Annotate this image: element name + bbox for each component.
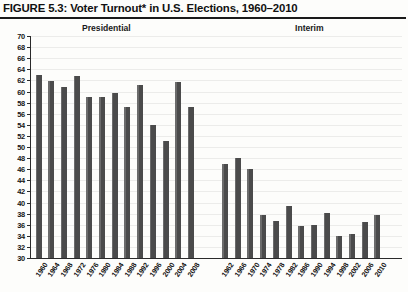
y-axis-label: 54 xyxy=(17,120,25,129)
y-axis-label: 48 xyxy=(17,154,25,163)
y-axis-label: 70 xyxy=(17,32,25,41)
bar-presidential-1976 xyxy=(86,97,92,258)
y-axis-tick xyxy=(27,258,30,259)
bar-highlight xyxy=(336,236,338,258)
bar-presidential-2000 xyxy=(163,141,169,258)
bar-highlight xyxy=(286,206,288,258)
y-axis-label: 44 xyxy=(17,176,25,185)
bar-highlight xyxy=(86,97,88,258)
x-axis-label-1996: 1996 xyxy=(147,261,163,279)
x-axis-label-1972: 1972 xyxy=(71,261,87,279)
bar-presidential-2008 xyxy=(188,107,194,258)
bar-highlight xyxy=(188,107,190,258)
bar-interim-1994 xyxy=(324,213,330,258)
bar-highlight xyxy=(74,76,76,258)
y-axis-label: 52 xyxy=(17,131,25,140)
section-header-presidential: Presidential xyxy=(82,23,131,33)
y-axis-label: 34 xyxy=(17,231,25,240)
title-bar: FIGURE 5.3: Voter Turnout* in U.S. Elect… xyxy=(0,0,408,19)
bar-highlight xyxy=(48,81,50,258)
bar-interim-1990 xyxy=(311,225,317,258)
x-axis-label-1992: 1992 xyxy=(135,261,151,279)
y-axis-label: 60 xyxy=(17,87,25,96)
bar-highlight xyxy=(311,225,313,258)
bar-presidential-1960 xyxy=(36,75,42,258)
y-axis-tick xyxy=(27,191,30,192)
y-axis-label: 36 xyxy=(17,220,25,229)
bar-highlight xyxy=(247,169,249,258)
x-axis-label-2010: 2010 xyxy=(372,261,388,279)
bar-presidential-1972 xyxy=(74,76,80,258)
y-axis-tick xyxy=(27,147,30,148)
y-axis-tick xyxy=(27,80,30,81)
gridline xyxy=(31,36,402,37)
section-header-interim: Interim xyxy=(295,23,324,33)
x-axis-label-1978: 1978 xyxy=(270,261,286,279)
y-axis-label: 40 xyxy=(17,198,25,207)
bar-interim-1974 xyxy=(260,215,266,258)
y-axis-tick xyxy=(27,214,30,215)
y-axis-tick xyxy=(27,125,30,126)
bar-highlight xyxy=(150,125,152,258)
bar-interim-2002 xyxy=(349,234,355,258)
y-axis-tick xyxy=(27,158,30,159)
x-axis-label-1966: 1966 xyxy=(232,261,248,279)
y-axis-tick xyxy=(27,169,30,170)
y-axis-tick xyxy=(27,69,30,70)
gridline xyxy=(31,47,402,48)
y-axis-label: 58 xyxy=(17,98,25,107)
bar-interim-1998 xyxy=(336,236,342,258)
y-axis-label: 64 xyxy=(17,65,25,74)
gridline xyxy=(31,69,402,70)
bar-interim-1978 xyxy=(273,221,279,258)
bar-highlight xyxy=(137,85,139,258)
bar-highlight xyxy=(124,107,126,258)
bar-highlight xyxy=(175,82,177,258)
gridline xyxy=(31,80,402,81)
y-axis-tick xyxy=(27,136,30,137)
x-axis-label-2006: 2006 xyxy=(359,261,375,279)
bar-presidential-1996 xyxy=(150,125,156,258)
bar-highlight xyxy=(362,222,364,258)
x-axis-label-1990: 1990 xyxy=(309,261,325,279)
bar-highlight xyxy=(163,141,165,258)
x-axis-label-2008: 2008 xyxy=(186,261,202,279)
y-axis-label: 62 xyxy=(17,76,25,85)
y-axis-label: 46 xyxy=(17,165,25,174)
bar-highlight xyxy=(260,215,262,258)
y-axis-tick xyxy=(27,203,30,204)
bar-highlight xyxy=(222,164,224,258)
x-axis-label-1984: 1984 xyxy=(109,261,125,279)
x-axis-label-1974: 1974 xyxy=(258,261,274,279)
x-axis-label-1962: 1962 xyxy=(220,261,236,279)
bar-presidential-1992 xyxy=(137,85,143,258)
x-axis-label-1994: 1994 xyxy=(321,261,337,279)
y-axis-label: 42 xyxy=(17,187,25,196)
bar-highlight xyxy=(36,75,38,258)
y-axis-tick xyxy=(27,247,30,248)
page-title: FIGURE 5.3: Voter Turnout* in U.S. Elect… xyxy=(3,1,298,16)
bar-highlight xyxy=(112,93,114,258)
bar-interim-2010 xyxy=(374,215,380,258)
y-axis-label: 50 xyxy=(17,143,25,152)
bar-interim-2006 xyxy=(362,222,368,258)
y-axis-tick xyxy=(27,58,30,59)
y-axis-label: 66 xyxy=(17,54,25,63)
y-axis-label: 68 xyxy=(17,43,25,52)
gridline xyxy=(31,58,402,59)
x-axis-label-1968: 1968 xyxy=(59,261,75,279)
y-axis-tick xyxy=(27,92,30,93)
bar-presidential-1964 xyxy=(48,81,54,258)
y-axis-label: 30 xyxy=(17,254,25,263)
y-axis-tick xyxy=(27,47,30,48)
y-axis-tick xyxy=(27,114,30,115)
bar-highlight xyxy=(273,221,275,258)
bar-highlight xyxy=(349,234,351,258)
y-axis-tick xyxy=(27,36,30,37)
bar-presidential-1988 xyxy=(124,107,130,258)
bar-interim-1986 xyxy=(298,226,304,258)
y-axis-label: 38 xyxy=(17,209,25,218)
bar-highlight xyxy=(99,97,101,258)
x-axis-label-2002: 2002 xyxy=(347,261,363,279)
x-axis-line xyxy=(30,258,402,259)
